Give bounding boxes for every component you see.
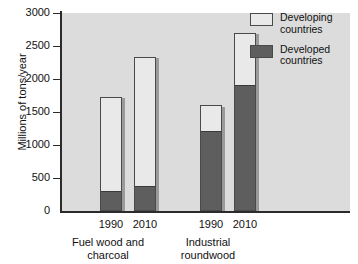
- legend-label-developing: Developing countries: [280, 12, 333, 36]
- y-tick-label-3000: 3000: [26, 7, 50, 18]
- y-tick-label-500: 500: [32, 172, 50, 183]
- bar-segment-developed-fuelwood-2010: [135, 186, 155, 210]
- legend-swatch-developed-icon: [250, 45, 273, 58]
- y-tick-label-2500: 2500: [26, 40, 50, 51]
- x-label-fuelwood-2010: 2010: [125, 218, 165, 230]
- bar-roundwood-1990: [200, 105, 222, 211]
- bar-segment-developed-fuelwood-1990: [101, 191, 121, 210]
- legend-item-developing: Developing countries: [250, 12, 333, 36]
- bar-segment-developed-roundwood-2010: [235, 85, 255, 210]
- y-tick-label-1500: 1500: [26, 106, 50, 117]
- bar-fuelwood-1990: [100, 97, 122, 211]
- bar-segment-developed-roundwood-1990: [201, 131, 221, 210]
- bar-fuelwood-2010: [134, 57, 156, 211]
- legend-item-developed: Developed countries: [250, 44, 333, 68]
- y-tick-3000: [53, 13, 61, 15]
- y-tick-2000: [53, 79, 61, 81]
- y-tick-2500: [53, 46, 61, 48]
- y-tick-500: [53, 178, 61, 180]
- legend-swatch-developing-icon: [250, 13, 273, 26]
- y-tick-label-2000: 2000: [26, 73, 50, 84]
- y-tick-label-1000: 1000: [26, 139, 50, 150]
- x-group-label-roundwood: Industrial roundwood: [138, 236, 278, 261]
- y-tick-1500: [53, 112, 61, 114]
- legend: Developing countries Developed countries: [250, 12, 333, 75]
- x-axis-line: [60, 211, 350, 213]
- y-tick-1000: [53, 145, 61, 147]
- bar-chart: Millions of tons/year 3000 2500 2000 150…: [0, 0, 358, 264]
- x-label-roundwood-2010: 2010: [225, 218, 265, 230]
- y-tick-label-0: 0: [44, 205, 50, 216]
- legend-label-developed: Developed countries: [280, 44, 330, 68]
